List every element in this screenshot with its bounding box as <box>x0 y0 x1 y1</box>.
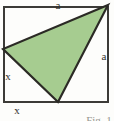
label-a-right: a <box>102 50 107 62</box>
label-a-top: a <box>56 0 61 11</box>
figure-canvas: a a x x Fig. 1 <box>0 0 114 121</box>
geometry-diagram: a a x x Fig. 1 <box>0 0 114 121</box>
figure-caption: Fig. 1 <box>86 114 112 121</box>
label-x-bottom: x <box>14 104 20 116</box>
label-x-left: x <box>5 70 11 82</box>
